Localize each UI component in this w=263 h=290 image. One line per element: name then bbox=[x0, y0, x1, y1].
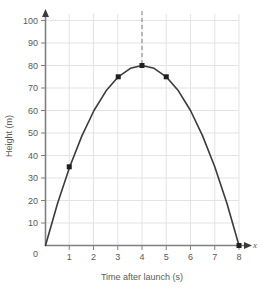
x-axis-variable-label: x bbox=[253, 240, 257, 250]
y-tick-label-70: 70 bbox=[12, 84, 38, 93]
x-tick-label-6: 6 bbox=[188, 253, 193, 262]
x-tick-label-5: 5 bbox=[164, 253, 169, 262]
vertical-gridlines bbox=[69, 14, 239, 246]
chart-plot-area bbox=[0, 0, 263, 290]
y-tick-label-60: 60 bbox=[12, 106, 38, 115]
height-vs-time-chart: 100 90 80 70 60 50 40 30 20 10 0 1 2 3 4… bbox=[0, 0, 263, 290]
data-point-marker bbox=[164, 74, 169, 79]
x-axis-title: Time after launch (s) bbox=[45, 272, 239, 282]
y-tick-label-30: 30 bbox=[12, 174, 38, 183]
y-tick-label-40: 40 bbox=[12, 151, 38, 160]
data-point-marker bbox=[237, 243, 242, 248]
x-tick-label-8: 8 bbox=[236, 253, 241, 262]
x-tick-label-4: 4 bbox=[139, 253, 144, 262]
y-axis bbox=[42, 9, 49, 246]
y-tick-label-10: 10 bbox=[12, 219, 38, 228]
y-tick-label-90: 90 bbox=[12, 39, 38, 48]
y-tick-label-20: 20 bbox=[12, 196, 38, 205]
y-tick-label-0: 0 bbox=[12, 250, 38, 259]
data-point-marker bbox=[116, 74, 121, 79]
y-axis-title: Height (m) bbox=[4, 101, 14, 171]
x-tick-label-3: 3 bbox=[115, 253, 120, 262]
data-point-marker bbox=[67, 164, 72, 169]
x-tick-label-1: 1 bbox=[67, 253, 72, 262]
y-tick-label-100: 100 bbox=[12, 16, 38, 25]
x-tick-label-2: 2 bbox=[91, 253, 96, 262]
y-tick-label-50: 50 bbox=[12, 129, 38, 138]
x-tick-label-7: 7 bbox=[212, 253, 217, 262]
x-axis bbox=[46, 242, 253, 249]
y-tick-label-80: 80 bbox=[12, 61, 38, 70]
data-point-marker bbox=[140, 63, 145, 68]
